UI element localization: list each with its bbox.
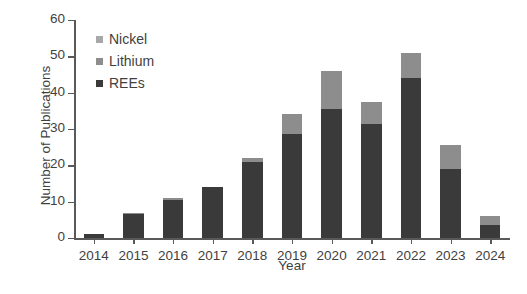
bar-2016 [163, 20, 184, 238]
y-tick-mark [68, 56, 74, 57]
x-tick-mark-2020 [332, 238, 333, 244]
legend-item-rees: REEs [96, 72, 154, 94]
bar-segment-lithium-2024 [480, 216, 501, 225]
y-tick-label: 60 [50, 11, 65, 26]
y-tick-mark [68, 165, 74, 166]
legend-label: Lithium [109, 54, 154, 68]
legend-label: REEs [109, 76, 145, 90]
bar-segment-rees-2019 [282, 134, 303, 238]
bar-2021 [361, 20, 382, 238]
x-tick-mark-2024 [490, 238, 491, 244]
bar-segment-lithium-2019 [282, 114, 303, 134]
x-axis-title: Year [74, 258, 510, 273]
bar-2018 [242, 20, 263, 238]
bar-segment-rees-2017 [202, 187, 223, 238]
bar-segment-rees-2021 [361, 124, 382, 238]
bar-2024 [480, 20, 501, 238]
legend-swatch-icon [96, 36, 103, 43]
bar-segment-rees-2016 [163, 200, 184, 238]
bar-2020 [321, 20, 342, 238]
bar-segment-rees-2018 [242, 162, 263, 238]
bar-segment-lithium-2022 [401, 53, 422, 78]
x-tick-mark-2018 [252, 238, 253, 244]
bar-segment-lithium-2023 [440, 145, 461, 169]
y-tick-mark [68, 202, 74, 203]
bar-2019 [282, 20, 303, 238]
bar-segment-rees-2023 [440, 169, 461, 238]
bar-segment-rees-2015 [123, 214, 144, 238]
bar-segment-rees-2024 [480, 225, 501, 238]
bar-segment-lithium-2015 [123, 213, 144, 215]
x-tick-mark-2019 [292, 238, 293, 244]
y-tick-label: 0 [57, 229, 65, 244]
stacked-bar-chart: Number of Publications 0102030405060 201… [0, 0, 527, 294]
y-tick-mark [68, 238, 74, 239]
x-tick-mark-2015 [133, 238, 134, 244]
y-tick-label: 10 [50, 193, 65, 208]
bar-2022 [401, 20, 422, 238]
legend-swatch-icon [96, 80, 103, 87]
bar-segment-lithium-2018 [242, 158, 263, 162]
y-axis-line [74, 20, 76, 238]
x-tick-mark-2017 [213, 238, 214, 244]
y-tick-label: 20 [50, 156, 65, 171]
bar-segment-lithium-2020 [321, 71, 342, 109]
y-tick-label: 50 [50, 47, 65, 62]
bar-segment-lithium-2016 [163, 198, 184, 200]
bar-segment-rees-2022 [401, 78, 422, 238]
bar-2023 [440, 20, 461, 238]
bar-segment-lithium-2021 [361, 102, 382, 124]
y-tick-mark [68, 20, 74, 21]
legend-label: Nickel [109, 32, 147, 46]
y-tick-label: 40 [50, 84, 65, 99]
chart-legend: NickelLithiumREEs [96, 28, 154, 94]
legend-item-nickel: Nickel [96, 28, 154, 50]
x-tick-mark-2021 [371, 238, 372, 244]
y-tick-label: 30 [50, 120, 65, 135]
legend-swatch-icon [96, 58, 103, 65]
x-tick-mark-2014 [94, 238, 95, 244]
x-tick-mark-2023 [451, 238, 452, 244]
x-tick-mark-2016 [173, 238, 174, 244]
bar-segment-rees-2020 [321, 109, 342, 238]
y-tick-mark [68, 129, 74, 130]
bar-2017 [202, 20, 223, 238]
y-tick-mark [68, 93, 74, 94]
x-tick-mark-2022 [411, 238, 412, 244]
legend-item-lithium: Lithium [96, 50, 154, 72]
